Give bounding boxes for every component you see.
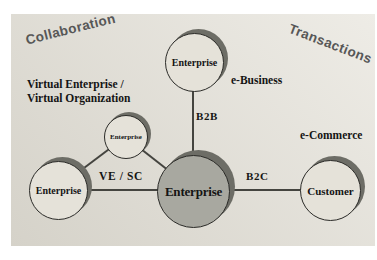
virtual-enterprise-label-line1: Virtual Enterprise /: [27, 77, 130, 91]
edge-ve-sc-line: [86, 189, 158, 191]
node-enterprise-center-label: Enterprise: [165, 184, 222, 200]
edge-b2c-label: B2C: [246, 170, 269, 182]
virtual-organization-label-line2: Virtual Organization: [27, 91, 130, 105]
node-enterprise-left: Enterprise: [29, 161, 88, 220]
edge-ve-sc-label: VE / SC: [99, 170, 143, 182]
virtual-enterprise-label: Virtual Enterprise / Virtual Organizatio…: [27, 77, 130, 105]
edge-b2b-line: [192, 91, 194, 156]
figure-canvas: Collaboration Transactions Virtual Enter…: [0, 0, 377, 260]
node-customer: Customer: [300, 160, 361, 221]
node-enterprise-mini-label: Enterprise: [110, 133, 142, 141]
edge-b2b-label: B2B: [196, 110, 218, 122]
node-enterprise-top: Enterprise: [165, 33, 224, 92]
node-enterprise-top-label: Enterprise: [172, 57, 218, 68]
node-customer-label: Customer: [307, 185, 353, 197]
node-enterprise-center: Enterprise: [157, 155, 230, 228]
node-enterprise-left-label: Enterprise: [36, 185, 82, 196]
e-business-label: e-Business: [231, 74, 282, 86]
edge-b2c-line: [228, 189, 301, 191]
node-enterprise-mini: Enterprise: [104, 115, 148, 159]
e-commerce-label: e-Commerce: [300, 129, 362, 141]
